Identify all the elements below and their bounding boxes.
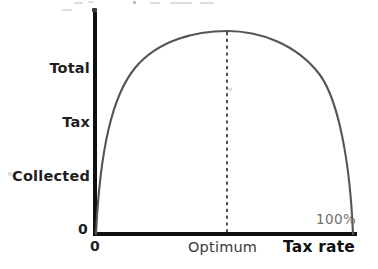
x-origin-tick-label: 0 — [90, 238, 100, 254]
laffer-curve-figure: Total Tax Collected 0 0 100% Optimum Tax… — [0, 0, 378, 269]
x-axis-title: Tax rate — [283, 238, 355, 256]
y-axis-title-line-3: Collected — [0, 167, 90, 185]
laffer-curve-path — [96, 31, 353, 234]
y-axis-title: Total Tax Collected — [0, 23, 90, 221]
optimum-annotation-label: Optimum — [188, 239, 257, 255]
y-origin-tick-label: 0 — [78, 221, 88, 237]
y-axis-title-line-2: Tax — [0, 113, 90, 131]
y-axis-title-line-1: Total — [0, 59, 90, 77]
x-max-tick-label: 100% — [316, 211, 356, 227]
